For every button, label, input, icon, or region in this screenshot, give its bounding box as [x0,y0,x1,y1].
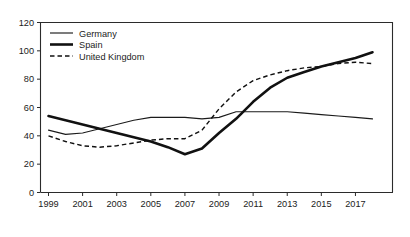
x-tick-label: 2003 [106,199,126,209]
y-tick-label: 0 [29,188,34,198]
series-line-united-kingdom [49,62,373,147]
y-tick-label: 20 [24,159,34,169]
x-tick-label: 1999 [38,199,58,209]
x-tick-label: 2007 [175,199,195,209]
legend-label-spain: Spain [79,40,103,50]
series-line-spain [49,52,373,154]
x-tick-label: 2017 [345,199,365,209]
x-tick-label: 2009 [209,199,229,209]
legend-label-united-kingdom: United Kingdom [79,52,145,62]
y-tick-label: 60 [24,103,34,113]
chart-canvas: 020406080100120 199920012003200520072009… [0,0,410,237]
series-lines [49,52,373,154]
x-tick-label: 2011 [243,199,263,209]
y-axis-ticks: 020406080100120 [19,18,41,198]
y-tick-label: 80 [24,74,34,84]
x-tick-label: 2015 [311,199,331,209]
y-tick-label: 40 [24,131,34,141]
y-tick-label: 100 [19,46,34,56]
legend-label-germany: Germany [79,29,117,39]
y-tick-label: 120 [19,18,34,28]
x-tick-label: 2005 [141,199,161,209]
series-line-germany [49,112,373,135]
x-tick-label: 2001 [72,199,92,209]
x-tick-label: 2013 [277,199,297,209]
x-axis-ticks: 1999200120032005200720092011201320152017 [38,193,365,210]
legend: Germany Spain United Kingdom [50,29,145,62]
line-chart: 020406080100120 199920012003200520072009… [0,0,410,237]
